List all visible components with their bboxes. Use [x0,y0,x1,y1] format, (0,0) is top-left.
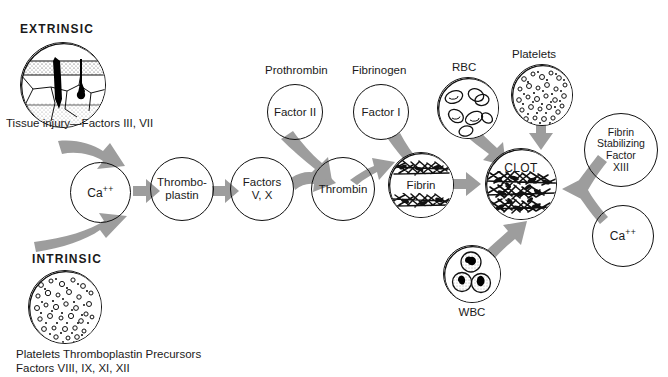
wbc-illustration [443,245,501,303]
node-factor-ii-label: Factor II [272,106,318,119]
extrinsic-heading: EXTRINSIC [20,22,94,37]
intrinsic-heading: INTRINSIC [32,252,102,267]
node-calcium-left: Ca++ [70,162,131,223]
platelets-label: Platelets [512,47,556,61]
node-factor-ii: Factor II [267,84,323,140]
extrinsic-caption: Tissue injury—Factors III, VII [6,116,153,130]
node-thrombin: Thrombin [311,157,375,221]
node-thromboplastin: Thrombo- plastin [150,157,214,221]
prothrombin-label: Prothrombin [265,63,328,77]
platelets-illustration [511,64,573,126]
intrinsic-caption-line1: Platelets Thromboplastin Precursors [16,347,201,361]
node-clot-label: CLOT [485,161,557,176]
node-fibrin-label: Fibrin [388,178,454,192]
node-fibrin-stabilizing-factor: Fibrin Stabilizing Factor XIII [584,113,658,187]
node-thromboplastin-label: Thrombo- plastin [155,176,209,202]
fibrinogen-label: Fibrinogen [352,63,406,77]
node-thrombin-label: Thrombin [317,183,370,196]
node-calcium-right: Ca++ [592,205,654,267]
coagulation-cascade-diagram: EXTRINSIC [0,0,668,377]
node-clot [485,148,557,220]
node-calcium-left-label: Ca++ [85,185,115,200]
node-factor-i: Factor I [353,84,409,140]
platelets-precursors-illustration [28,270,102,344]
node-calcium-right-label: Ca++ [608,228,638,243]
rbc-illustration [437,77,499,139]
node-factor-i-label: Factor I [360,106,403,119]
rbc-label: RBC [452,60,476,74]
arrow-fibrin-to-clot [452,172,481,196]
node-factors-v-x-label: Factors V, X [241,176,283,202]
node-fsf-label: Fibrin Stabilizing Factor XIII [595,127,647,174]
wbc-label: WBC [443,305,501,319]
node-factors-v-x: Factors V, X [230,157,294,221]
intrinsic-caption-line2: Factors VIII, IX, XI, XII [16,361,130,375]
